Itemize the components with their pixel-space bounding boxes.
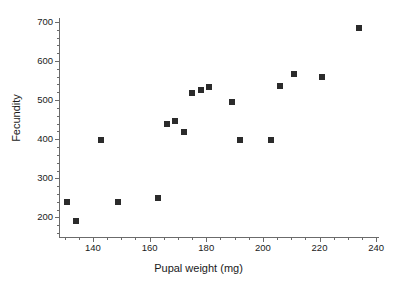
data-point (237, 137, 243, 143)
data-point (164, 121, 170, 127)
data-point (189, 90, 195, 96)
x-tick-minor (192, 238, 193, 240)
y-tick-label: 200 (37, 212, 53, 222)
y-tick-label: 600 (37, 56, 53, 66)
x-tick-label: 200 (243, 243, 283, 253)
data-point (291, 71, 297, 77)
x-tick-minor (135, 238, 136, 240)
x-tick-minor (249, 238, 250, 240)
x-tick-label: 220 (300, 243, 340, 253)
plot-area (59, 18, 379, 237)
data-point (181, 129, 187, 135)
x-tick-minor (348, 238, 349, 240)
data-point (268, 137, 274, 143)
x-tick-label: 140 (73, 243, 113, 253)
data-point (98, 137, 104, 143)
x-tick-label: 160 (130, 243, 170, 253)
x-tick-minor (65, 238, 66, 240)
data-point (229, 99, 235, 105)
x-tick-minor (277, 238, 278, 240)
x-axis-title: Pupal weight (mg) (0, 262, 397, 274)
scatter-chart: 200300400500600700 140160180200220240 Pu… (0, 0, 397, 291)
x-tick-label: 240 (356, 243, 396, 253)
x-tick-minor (235, 238, 236, 240)
y-tick-label: 300 (37, 173, 53, 183)
data-point (198, 87, 204, 93)
data-point (155, 195, 161, 201)
x-tick-minor (164, 238, 165, 240)
x-tick-minor (291, 238, 292, 240)
data-point (172, 118, 178, 124)
y-tick-label: 500 (37, 95, 53, 105)
data-point (206, 84, 212, 90)
data-point (277, 83, 283, 89)
x-tick-minor (79, 238, 80, 240)
x-tick-label: 180 (186, 243, 226, 253)
x-tick-minor (178, 238, 179, 240)
data-point (319, 74, 325, 80)
x-tick-minor (107, 238, 108, 240)
y-tick-label: 700 (37, 17, 53, 27)
data-point (356, 25, 362, 31)
y-axis-title: Fecundity (10, 58, 22, 178)
x-tick-minor (121, 238, 122, 240)
x-tick-minor (220, 238, 221, 240)
x-tick-minor (362, 238, 363, 240)
x-tick-minor (334, 238, 335, 240)
x-tick-minor (305, 238, 306, 240)
data-point (115, 199, 121, 205)
data-point (73, 218, 79, 224)
data-point (64, 199, 70, 205)
y-tick-label: 400 (37, 134, 53, 144)
